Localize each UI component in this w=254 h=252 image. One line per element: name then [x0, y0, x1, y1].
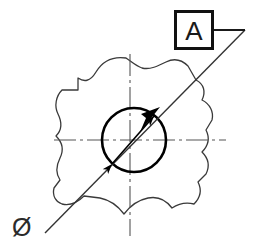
diameter-symbol: Ø	[12, 213, 31, 241]
drawing-background	[0, 0, 254, 252]
datum-callout-label: A	[185, 16, 203, 46]
drawing-svg: A Ø	[0, 0, 254, 252]
technical-drawing-canvas: A Ø	[0, 0, 254, 252]
